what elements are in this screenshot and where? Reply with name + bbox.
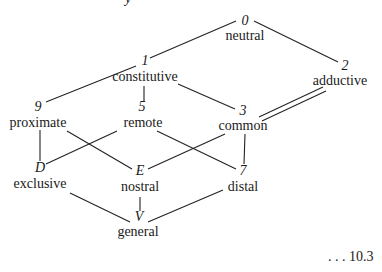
- edge-7-V: [148, 190, 223, 222]
- node-D-symbol: D: [35, 161, 45, 175]
- node-5-label: remote: [124, 116, 163, 130]
- node-7-symbol: 7: [240, 164, 247, 178]
- edge-D-V: [70, 193, 130, 222]
- edge-5-D: [46, 131, 117, 164]
- node-0-symbol: 0: [242, 14, 249, 28]
- lattice-edges: [0, 0, 382, 272]
- node-3-symbol: 3: [240, 104, 247, 118]
- edge-5-7: [157, 131, 236, 169]
- edge-3-E: [148, 134, 225, 169]
- edge-0-2: [254, 21, 338, 62]
- node-V-symbol: V: [135, 210, 144, 224]
- edge-0-1: [150, 21, 236, 58]
- node-2-symbol: 2: [342, 59, 349, 73]
- node-2-label: adductive: [313, 74, 367, 88]
- node-5-symbol: 5: [139, 100, 146, 114]
- node-9-label: proximate: [10, 116, 67, 130]
- equation-number: . . . 10.3: [328, 250, 374, 264]
- node-0-label: neutral: [226, 29, 265, 43]
- edge-2-3-a: [259, 87, 323, 117]
- node-D-label: exclusive: [14, 177, 67, 191]
- edge-3-7: [244, 134, 245, 164]
- node-V-label: general: [117, 225, 158, 239]
- edge-1-3: [178, 84, 235, 109]
- node-3-label: common: [219, 119, 268, 133]
- cut-off-text: y: [125, 0, 131, 7]
- node-1-label: constitutive: [112, 70, 177, 84]
- node-7-label: distal: [228, 180, 258, 194]
- node-9-symbol: 9: [35, 100, 42, 114]
- node-E-symbol: E: [136, 164, 145, 178]
- edge-2-3-b: [262, 91, 326, 121]
- node-E-label: nostral: [121, 180, 159, 194]
- node-1-symbol: 1: [142, 54, 149, 68]
